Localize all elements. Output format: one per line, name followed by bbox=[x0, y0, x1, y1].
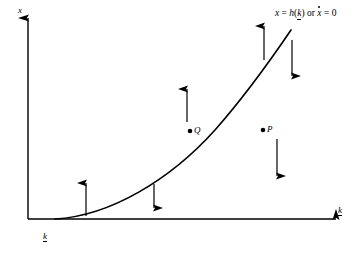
curve-label-or: or bbox=[305, 8, 318, 18]
arrows-group bbox=[86, 26, 292, 216]
axes-group bbox=[28, 18, 336, 219]
k-lower-bound-label: k bbox=[43, 232, 47, 242]
phase-diagram-figure: x k k x = h(k) or x = 0 Q P bbox=[0, 0, 361, 254]
phase-curve bbox=[55, 30, 291, 219]
x-axis-label-text: k bbox=[338, 206, 342, 216]
point-label-p: P bbox=[267, 125, 273, 134]
point-label-q: Q bbox=[194, 126, 201, 135]
k-lower-bound-text: k bbox=[43, 232, 47, 242]
point-dot-p bbox=[261, 128, 266, 133]
diagram-canvas bbox=[0, 0, 361, 254]
curve-label-eq2: = 0 bbox=[322, 8, 337, 18]
curve-label-eq1: = bbox=[279, 8, 289, 18]
curve-equation-label: x = h(k) or x = 0 bbox=[275, 9, 336, 20]
point-dot-q bbox=[188, 129, 193, 134]
curve-group bbox=[55, 30, 291, 219]
curve-label-xdot: x bbox=[317, 9, 321, 19]
x-axis-label: k bbox=[338, 206, 342, 216]
y-axis-label: x bbox=[18, 6, 22, 15]
